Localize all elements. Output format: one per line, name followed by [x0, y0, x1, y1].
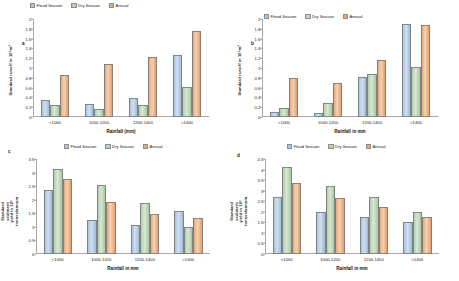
figure-four-bar-charts: Standard runoff in 10⁶m³ a 00.20.40.60.8…: [0, 0, 459, 281]
bar-group: [80, 159, 124, 254]
x-tick-labels-b: <10001000-12001200-1400>1400: [262, 120, 438, 125]
bar-annual[interactable]: [192, 31, 202, 117]
bar-annual[interactable]: [379, 207, 389, 254]
bar-dry-season[interactable]: [369, 197, 379, 254]
bar-dry-season[interactable]: [138, 105, 148, 117]
bar-group: [396, 159, 440, 254]
chart-panel-b: Standard runoff in 10⁶m³ b 00.20.40.60.8…: [229, 0, 459, 141]
bar-flood-season[interactable]: [87, 220, 97, 254]
x-tick-labels-a: <10001000-12001200-1400>1400: [33, 120, 209, 125]
legend-item[interactable]: Annual: [109, 3, 129, 8]
bar-annual[interactable]: [150, 214, 160, 254]
y-axis-title-a: Standard runoff in 10⁶m³: [2, 0, 20, 141]
legend-item[interactable]: Annual: [143, 144, 163, 149]
panel-label-d: d: [237, 153, 240, 158]
bar-groups-a: [33, 19, 209, 117]
bar-annual[interactable]: [106, 202, 116, 254]
bar-group: [262, 19, 306, 117]
bar-flood-season[interactable]: [316, 212, 326, 254]
bar-annual[interactable]: [421, 25, 431, 117]
bar-flood-season[interactable]: [85, 104, 95, 117]
legend-label: Dry Season: [335, 144, 357, 149]
legend-item[interactable]: Dry Season: [71, 3, 99, 8]
legend-label: Dry Season: [312, 14, 334, 19]
legend-item[interactable]: Dry Season: [105, 144, 133, 149]
y-axis-title-b: Standard runoff in 10⁶m³: [231, 0, 249, 141]
bar-annual[interactable]: [377, 60, 387, 117]
bar-flood-season[interactable]: [129, 98, 139, 117]
bar-annual[interactable]: [289, 78, 299, 117]
bar-annual[interactable]: [292, 183, 302, 254]
legend-swatch-icon: [64, 144, 69, 149]
bar-dry-season[interactable]: [279, 108, 289, 117]
y-axis-title-c: Standard sediment yield in 10⁶ tonnes/an…: [2, 141, 20, 281]
x-tick-label: <1000: [36, 257, 80, 262]
bar-dry-season[interactable]: [184, 227, 194, 254]
bar-dry-season[interactable]: [411, 67, 421, 117]
bar-flood-season[interactable]: [403, 222, 413, 255]
x-tick-label: 1200-1400: [352, 257, 396, 262]
bar-group: [394, 19, 438, 117]
legend-item[interactable]: Annual: [343, 14, 363, 19]
bar-flood-season[interactable]: [360, 217, 370, 254]
x-tick-label: 1000-1200: [309, 257, 353, 262]
bar-dry-season[interactable]: [367, 74, 377, 117]
legend-item[interactable]: Flood Season: [264, 14, 296, 19]
legend-swatch-icon: [328, 144, 333, 149]
bar-annual[interactable]: [104, 64, 114, 117]
legend-swatch-icon: [105, 144, 110, 149]
x-tick-label: 1000-1200: [306, 120, 350, 125]
legend-d: Flood SeasonDry SeasonAnnual: [287, 144, 386, 149]
panel-label-a: a: [22, 41, 25, 46]
bar-flood-season[interactable]: [270, 112, 280, 117]
bar-dry-season[interactable]: [97, 185, 107, 254]
bar-flood-season[interactable]: [131, 225, 141, 254]
legend-item[interactable]: Flood Season: [30, 3, 62, 8]
bar-dry-season[interactable]: [140, 203, 150, 254]
legend-swatch-icon: [30, 3, 35, 8]
bar-annual[interactable]: [193, 218, 203, 254]
legend-item[interactable]: Flood Season: [287, 144, 319, 149]
bar-flood-season[interactable]: [44, 190, 54, 254]
bar-flood-season[interactable]: [273, 197, 283, 254]
bar-dry-season[interactable]: [413, 212, 423, 254]
bar-flood-season[interactable]: [358, 77, 368, 117]
bar-flood-season[interactable]: [41, 100, 51, 117]
bar-dry-season[interactable]: [94, 109, 104, 117]
legend-swatch-icon: [366, 144, 371, 149]
legend-item[interactable]: Annual: [366, 144, 386, 149]
bar-annual[interactable]: [63, 179, 73, 254]
x-axis-title-d: Rainfall in mm: [265, 266, 439, 271]
bar-dry-season[interactable]: [323, 103, 333, 117]
x-tick-label: 1000-1200: [77, 120, 121, 125]
bar-annual[interactable]: [422, 217, 432, 254]
bar-flood-season[interactable]: [314, 113, 324, 117]
bar-dry-season[interactable]: [50, 105, 60, 117]
legend-c: Flood SeasonDry SeasonAnnual: [64, 144, 163, 149]
bar-flood-season[interactable]: [174, 211, 184, 254]
panel-label-c: c: [8, 149, 11, 154]
bar-annual[interactable]: [148, 57, 158, 117]
bar-annual[interactable]: [60, 75, 70, 117]
bar-dry-season[interactable]: [53, 169, 63, 254]
bar-group: [123, 159, 167, 254]
bar-flood-season[interactable]: [402, 24, 412, 117]
legend-label: Flood Season: [71, 144, 97, 149]
x-tick-label: <1000: [265, 257, 309, 262]
legend-swatch-icon: [109, 3, 114, 8]
bar-dry-season[interactable]: [182, 87, 192, 117]
bar-group: [36, 159, 80, 254]
bar-annual[interactable]: [333, 83, 343, 117]
legend-item[interactable]: Dry Season: [305, 14, 333, 19]
legend-item[interactable]: Flood Season: [64, 144, 96, 149]
bar-group: [350, 19, 394, 117]
bar-annual[interactable]: [335, 198, 345, 254]
bar-dry-season[interactable]: [326, 186, 336, 254]
chart-panel-d: Standard sediment yield in 10⁶ tonnes/an…: [229, 141, 459, 281]
bar-group: [33, 19, 77, 117]
legend-item[interactable]: Dry Season: [328, 144, 356, 149]
bar-dry-season[interactable]: [282, 167, 292, 254]
bar-groups-b: [262, 19, 438, 117]
bar-flood-season[interactable]: [173, 55, 183, 117]
legend-a: Flood SeasonDry SeasonAnnual: [30, 3, 129, 8]
